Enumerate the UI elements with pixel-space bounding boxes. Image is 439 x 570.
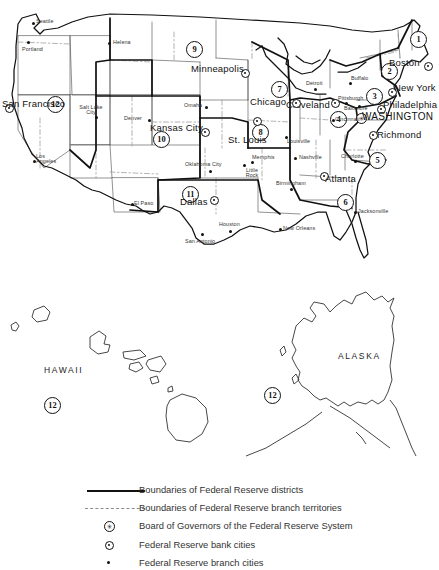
branch-city-label-pittsburgh: Pittsburgh (338, 96, 363, 101)
bank-city-marker-dallas[interactable] (210, 196, 219, 205)
bank-city-label-atlanta: Atlanta (325, 174, 356, 184)
branch-city-label-baltimore: Baltimore (344, 106, 368, 111)
region-label-hawaii: HAWAII (44, 366, 83, 375)
bank-city-label-new-york: New York (394, 83, 436, 93)
branch-city-label-jacksonville: Jacksonville (358, 209, 388, 214)
branch-city-label-oklahoma-city: Oklahoma City (185, 162, 222, 167)
branch-city-label-salt-lake-city: Salt Lake City (78, 105, 104, 116)
branch-mark-icon (107, 561, 110, 564)
legend-label-district-boundaries: Boundaries of Federal Reserve districts (139, 484, 303, 495)
branch-city-label-little-rock: Little Rock (243, 168, 261, 179)
bank-city-label-richmond: Richmond (377, 130, 421, 140)
board-of-governors-label: WASHINGTON (362, 112, 433, 122)
branch-city-label-detroit: Detroit (306, 81, 323, 86)
district-circle-6[interactable]: 6 (337, 194, 354, 211)
branch-city-label-houston: Houston (219, 222, 240, 227)
bank-mark-icon (105, 541, 114, 550)
branch-city-label-louisville: Louisville (287, 139, 310, 144)
bank-city-label-minneapolis: Minneapolis (191, 64, 244, 74)
bank-city-label-st-louis: St. Louis (228, 135, 267, 145)
branch-city-label-denver: Denver (124, 116, 142, 121)
dashed-line-icon (85, 508, 145, 509)
bank-city-marker-chicago[interactable] (292, 99, 301, 108)
branch-city-label-el-paso: El Paso (134, 201, 153, 206)
branch-city-label-memphis: Memphis (252, 155, 275, 160)
district-circle-12-alaska[interactable]: 12 (264, 387, 281, 404)
bank-city-label-philadelphia: Philadelphia (383, 100, 437, 110)
legend-row-district-boundaries: Boundaries of Federal Reserve districts (0, 482, 439, 500)
bank-city-label-kansas-city: Kansas City (150, 123, 203, 133)
district-circle-3[interactable]: 3 (366, 88, 383, 105)
legend-label-branch-cities: Federal Reserve branch cities (139, 557, 264, 568)
map-legend: Boundaries of Federal Reserve districts … (0, 472, 439, 562)
district-circle-9[interactable]: 9 (186, 41, 203, 58)
legend-label-board-of-governors: Board of Governors of the Federal Reserv… (139, 520, 353, 531)
district-circle-1[interactable]: 1 (410, 31, 427, 48)
region-label-alaska: ALASKA (338, 352, 381, 361)
district-circle-5[interactable]: 5 (369, 152, 386, 169)
bank-city-label-boston: Boston (389, 58, 420, 68)
board-mark-icon (104, 521, 115, 532)
branch-city-label-los-angeles: Los Angeles (36, 154, 62, 165)
branch-city-label-seattle: Seattle (36, 19, 53, 24)
district-circle-12-hawaii[interactable]: 12 (44, 397, 61, 414)
district-circle-10[interactable]: 10 (153, 131, 170, 148)
solid-line-icon (87, 490, 145, 492)
branch-city-label-san-antonio: San Antonio (185, 239, 215, 244)
branch-city-label-charlotte: Charlotte (341, 154, 364, 159)
branch-city-label-nashville: Nashville (299, 155, 322, 160)
bank-city-marker-st-louis[interactable] (253, 117, 262, 126)
branch-city-label-portland: Portland (22, 47, 43, 52)
branch-city-label-buffalo: Buffalo (351, 76, 368, 81)
branch-city-label-helena: Helena (113, 40, 131, 45)
branch-city-label-cincinnati: Cincinnati (335, 117, 360, 122)
legend-row-board-of-governors: Board of Governors of the Federal Reserv… (0, 518, 439, 536)
branch-city-label-birmingham: Birmingham (276, 181, 306, 186)
bank-city-marker-boston[interactable] (424, 62, 433, 71)
legend-label-bank-cities: Federal Reserve bank cities (139, 539, 255, 550)
branch-city-label-new-orleans: New Orleans (283, 226, 315, 231)
bank-city-label-dallas: Dallas (180, 197, 208, 207)
legend-row-bank-cities: Federal Reserve bank cities (0, 537, 439, 555)
legend-row-branch-boundaries: Boundaries of Federal Reserve branch ter… (0, 500, 439, 518)
branch-city-label-omaha: Omaha (184, 103, 202, 108)
legend-label-branch-boundaries: Boundaries of Federal Reserve branch ter… (139, 502, 342, 513)
legend-row-branch-cities: Federal Reserve branch cities (0, 555, 439, 570)
bank-city-label-san-francisco: San Francisco (2, 99, 65, 109)
bank-city-label-chicago: Chicago (250, 97, 286, 107)
